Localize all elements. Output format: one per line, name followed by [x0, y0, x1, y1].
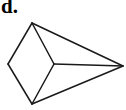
edge-BC	[8, 64, 32, 104]
edge-AE	[32, 23, 123, 66]
edge-CE	[32, 66, 123, 104]
diagram-edges	[8, 23, 123, 104]
edge-AD	[32, 23, 54, 64]
edge-AB	[8, 23, 32, 64]
kite-diagram	[0, 0, 126, 110]
edge-DC	[32, 64, 54, 104]
edge-DE	[54, 64, 123, 66]
